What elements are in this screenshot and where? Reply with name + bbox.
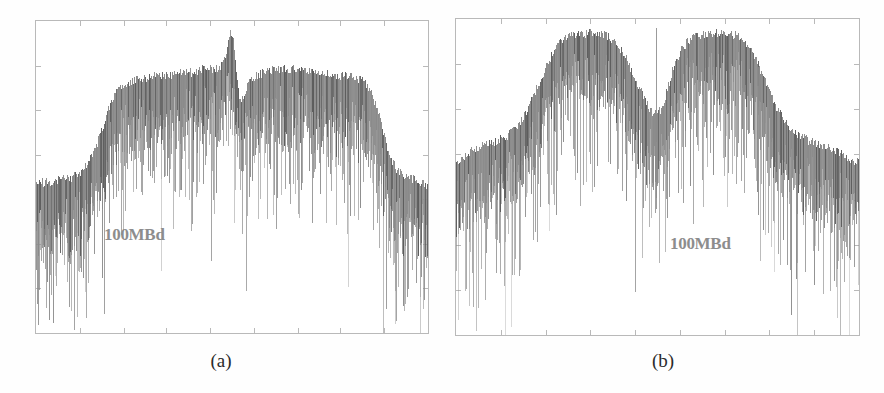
figure-panel-a: 100MBd (a) [0,0,442,393]
inline-symbol-rate-label-b: 100MBd [670,234,731,254]
figure-container: 100MBd (a) 100MBd (b) [0,0,884,393]
spectrum-plot-b [456,19,859,335]
plot-frame-b [455,18,860,336]
spectrum-plot-a [36,21,428,333]
figure-panel-b: 100MBd (b) [442,0,884,393]
inline-symbol-rate-label-a: 100MBd [104,225,165,245]
panel-caption-b: (b) [442,350,884,372]
plot-frame-a [35,20,429,334]
panel-caption-a: (a) [0,350,442,372]
